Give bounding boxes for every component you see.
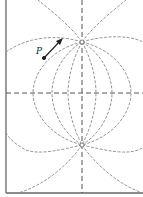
point-label: P: [35, 46, 43, 56]
frame: [6, 0, 143, 193]
upper-charge-icon: [80, 40, 84, 44]
symmetry-axes: [6, 0, 143, 193]
field-line-diagram: P: [0, 0, 143, 197]
lower-outer-lines: [6, 133, 143, 193]
lower-charge-icon: [80, 143, 84, 147]
point-p-marker: [42, 56, 45, 59]
upper-outer-lines: [6, 0, 143, 52]
diagram-canvas: P: [0, 0, 143, 197]
